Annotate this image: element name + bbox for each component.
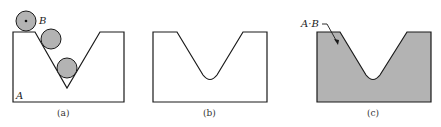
caption-a: (a) [57,108,69,118]
rolling-ball-bottom [57,58,77,78]
morphology-figure: B A (a) (b) A·B (c) [0,0,441,127]
origin-dot [25,20,28,23]
caption-b: (b) [203,108,216,118]
label-a-dot-b: A·B [300,18,319,29]
caption-c: (c) [367,108,379,118]
closing-result-shape [317,32,431,102]
closed-shape-outline [153,32,267,102]
panel-a: B A (a) [13,11,124,118]
label-a: A [15,90,23,101]
panel-c: A·B (c) [300,18,431,118]
label-b: B [38,15,46,26]
panel-b: (b) [153,32,267,118]
rolling-ball-middle [41,29,61,49]
